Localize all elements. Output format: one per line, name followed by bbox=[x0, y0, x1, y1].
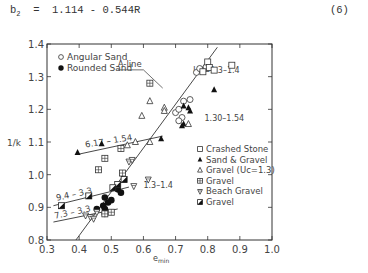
x-tick-label: 0.5 bbox=[103, 244, 119, 255]
open-circle-marker bbox=[176, 118, 182, 124]
filled-circle-marker bbox=[108, 197, 115, 204]
legend-label: Sand & Gravel bbox=[206, 155, 267, 165]
crossed-square-marker bbox=[198, 178, 203, 183]
y-tick-label: 1.3 bbox=[28, 72, 44, 83]
legend-label: Gravel (Uc=1.3) bbox=[206, 165, 275, 175]
y-tick-label: 1.0 bbox=[28, 170, 44, 181]
legend-label: Rounded Sand bbox=[67, 63, 132, 73]
x-tick-label: 0.9 bbox=[232, 244, 248, 255]
half-filled-square-marker bbox=[110, 185, 116, 191]
half-filled-square-marker bbox=[86, 193, 92, 199]
crossed-square-marker bbox=[102, 155, 108, 161]
annotation: 1.30–1.54 bbox=[205, 114, 245, 123]
open-triangle-marker bbox=[147, 98, 153, 104]
crossed-down-triangle-marker bbox=[131, 184, 137, 190]
open-square-marker bbox=[229, 62, 235, 68]
legend-label: Beach Gravel bbox=[206, 186, 263, 196]
filled-triangle-marker bbox=[75, 149, 81, 155]
legend-label: Gravel bbox=[206, 197, 234, 207]
half-filled-square-marker bbox=[121, 177, 127, 183]
half-filled-square-marker bbox=[198, 200, 203, 205]
x-tick-label: 0.4 bbox=[71, 244, 87, 255]
x-tick-label: 0.7 bbox=[168, 244, 184, 255]
legend-label: Gravel bbox=[206, 176, 234, 186]
crossed-square-marker bbox=[102, 211, 108, 217]
open-circle-marker bbox=[59, 55, 64, 60]
x-tick-label: 1.0 bbox=[264, 244, 280, 255]
crossed-square-marker bbox=[120, 170, 126, 176]
filled-triangle-marker bbox=[198, 157, 203, 162]
legend-lower-right: Crashed StoneSand & GravelGravel (Uc=1.3… bbox=[198, 144, 275, 207]
crossed-square-marker bbox=[95, 167, 101, 173]
open-square-marker bbox=[200, 69, 206, 75]
legend-label: Angular Sand bbox=[67, 52, 128, 62]
crossed-square-marker bbox=[147, 80, 153, 86]
open-square-marker bbox=[211, 67, 217, 73]
y-tick-label: 1.1 bbox=[28, 137, 44, 148]
filled-triangle-marker bbox=[158, 135, 164, 141]
crossed-square-marker bbox=[108, 209, 114, 215]
open-triangle-marker bbox=[198, 167, 203, 172]
open-square-marker bbox=[205, 59, 211, 65]
legend-label: Crashed Stone bbox=[206, 144, 268, 154]
x-axis-label: emin bbox=[153, 254, 169, 264]
y-tick-label: 0.8 bbox=[28, 235, 44, 246]
scatter-chart: 0.30.40.50.60.70.80.91.00.80.91.01.11.21… bbox=[0, 0, 368, 273]
y-axis-label: 1/k bbox=[7, 138, 22, 148]
y-tick-label: 1.4 bbox=[28, 39, 44, 50]
open-circle-marker bbox=[187, 97, 193, 103]
crossed-down-triangle-marker bbox=[198, 190, 203, 195]
x-tick-label: 0.8 bbox=[200, 244, 216, 255]
open-triangle-marker bbox=[185, 121, 191, 127]
open-square-marker bbox=[198, 147, 203, 152]
y-tick-label: 1.2 bbox=[28, 104, 44, 115]
filled-circle-marker bbox=[118, 189, 125, 196]
open-circle-marker bbox=[176, 106, 182, 112]
crossed-square-marker bbox=[118, 146, 124, 152]
filled-circle-marker bbox=[58, 65, 63, 70]
open-triangle-marker bbox=[139, 112, 145, 118]
filled-triangle-marker bbox=[211, 86, 217, 92]
x-tick-label: 0.6 bbox=[135, 244, 151, 255]
legend-upper-left: Angular SandRounded Sand bbox=[58, 52, 132, 73]
y-tick-label: 0.9 bbox=[28, 202, 44, 213]
half-filled-square-marker bbox=[58, 203, 64, 209]
